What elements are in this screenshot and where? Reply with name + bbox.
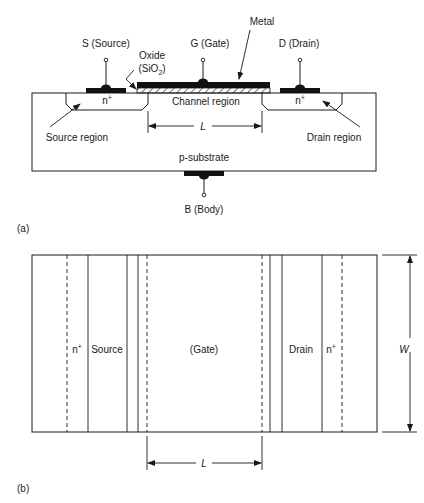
gate-label-top: (Gate) bbox=[190, 344, 218, 355]
panel-b-label: (b) bbox=[17, 483, 29, 494]
drain-n-plus-label: n+ bbox=[295, 94, 305, 106]
source-n-plus-label-top: n+ bbox=[72, 343, 82, 355]
metal-callout-arrow bbox=[239, 30, 250, 79]
cross-section-panel: S (Source) G (Gate) D (Drain) B (Body) M… bbox=[17, 16, 376, 234]
source-region-arrow bbox=[50, 104, 80, 127]
width-label: W bbox=[399, 344, 410, 355]
gate-terminal-icon bbox=[201, 58, 205, 62]
drain-terminal-label: D (Drain) bbox=[279, 38, 320, 49]
top-view-panel: n+ Source (Gate) Drain n+ W L (b) bbox=[17, 255, 417, 494]
drain-terminal-icon bbox=[298, 58, 302, 62]
channel-length-label: L bbox=[200, 121, 206, 132]
gate-terminal-label: G (Gate) bbox=[191, 38, 230, 49]
drain-label-top: Drain bbox=[289, 344, 313, 355]
drain-region-label: Drain region bbox=[307, 132, 361, 143]
source-label-top: Source bbox=[91, 344, 123, 355]
gate-oxide-layer bbox=[137, 88, 270, 93]
p-substrate-label: p-substrate bbox=[179, 152, 229, 163]
mosfet-diagram: S (Source) G (Gate) D (Drain) B (Body) M… bbox=[0, 0, 424, 503]
oxide-callout-label: Oxide bbox=[139, 50, 166, 61]
body-terminal-label: B (Body) bbox=[185, 204, 224, 215]
panel-a-label: (a) bbox=[17, 223, 29, 234]
length-label: L bbox=[201, 458, 207, 469]
source-terminal-icon bbox=[104, 58, 108, 62]
source-n-plus-label: n+ bbox=[102, 94, 112, 106]
metal-callout-label: Metal bbox=[250, 16, 274, 27]
oxide-formula-label: (SiO2) bbox=[138, 63, 165, 76]
body-terminal-icon bbox=[202, 193, 206, 197]
drain-n-plus-label-top: n+ bbox=[326, 343, 336, 355]
source-terminal-label: S (Source) bbox=[82, 38, 130, 49]
channel-region-label: Channel region bbox=[172, 96, 240, 107]
source-region-label: Source region bbox=[46, 132, 108, 143]
oxide-callout-arrow bbox=[126, 70, 136, 89]
